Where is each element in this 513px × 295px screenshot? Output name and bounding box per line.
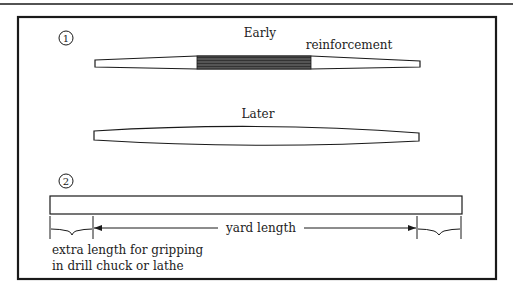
arrow-shaft-diagram: 1 Early reinforcement Later 2 yard lengt…: [0, 0, 513, 295]
section-1-marker: 1: [59, 31, 73, 45]
early-label: Early: [244, 26, 276, 40]
section-2-number: 2: [63, 176, 69, 187]
extra-length-line-2: in drill chuck or lathe: [52, 259, 184, 273]
later-label: Later: [242, 107, 275, 121]
left-brace: [51, 229, 92, 235]
yard-length-label: yard length: [225, 221, 296, 235]
right-brace: [418, 229, 460, 235]
reinforcement-label: reinforcement: [306, 38, 393, 52]
section-1-number: 1: [63, 33, 69, 44]
reinforcement-band: [197, 56, 311, 69]
section-2-marker: 2: [59, 174, 73, 188]
early-shaft: [95, 56, 420, 69]
extra-length-line-1: extra length for gripping: [52, 243, 204, 257]
dowel-blank: [50, 196, 462, 214]
later-shaft: [94, 126, 419, 145]
